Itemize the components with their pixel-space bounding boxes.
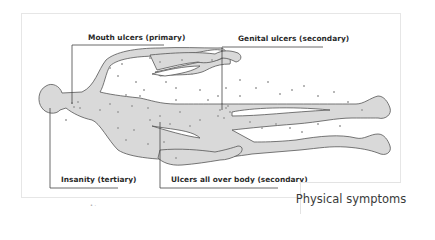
callout-insanity: Insanity (tertiary) — [61, 175, 137, 184]
caption-box: Physical symptoms — [300, 182, 401, 214]
callout-genital-ulcers: Genital ulcers (secondary) — [238, 34, 349, 43]
body-silhouette — [39, 48, 390, 166]
callout-body-ulcers: Ulcers all over body (secondary) — [171, 175, 308, 184]
footnote-mark: • · — [90, 202, 96, 208]
caption-title: Physical symptoms — [296, 192, 406, 206]
callout-mouth-ulcers: Mouth ulcers (primary) — [88, 33, 185, 42]
